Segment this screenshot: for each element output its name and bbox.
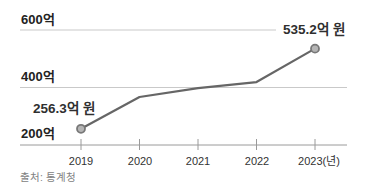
data-line [81, 49, 315, 129]
x-axis-label-2022: 2022 [245, 156, 269, 167]
source-caption: 출처: 통계청 [20, 172, 76, 183]
data-label-2023: 535.2억 원 [283, 23, 345, 37]
x-axis-label-2020: 2020 [128, 156, 152, 167]
y-axis-label-600: 600억 [21, 13, 55, 26]
x-axis-label-2021: 2021 [186, 156, 210, 167]
data-label-2019: 256.3억 원 [33, 102, 95, 116]
x-axis-label-2019: 2019 [69, 156, 93, 167]
x-axis-label-2023: 2023(년) [298, 156, 340, 167]
data-point-marker [311, 45, 319, 53]
y-axis-label-200: 200억 [21, 127, 55, 140]
y-axis-label-400: 400억 [21, 70, 55, 83]
line-chart-figure: 600억 400억 200억 256.3억 원 535.2억 원 2019 20… [0, 0, 365, 193]
data-point-marker [77, 125, 85, 133]
